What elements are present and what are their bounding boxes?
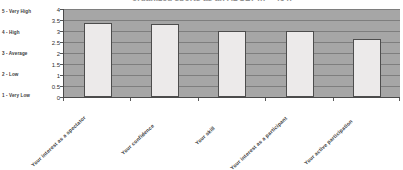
scale-legend-item-low: 2 - Low	[2, 72, 46, 77]
y-axis-tick-2-5: 2.5	[52, 40, 60, 46]
bar-slot-5	[334, 9, 401, 97]
chart-title: organized sports as an ADULT (n = 464)	[62, 0, 362, 1]
x-axis-category-labels: Your interest as a spectator Your confid…	[0, 100, 403, 170]
bar-your-active-participation[interactable]	[353, 39, 381, 97]
scale-legend-item-very-high: 5 - Very High	[2, 9, 46, 14]
y-axis-tick-4: 4	[57, 7, 60, 13]
bar-slot-4	[266, 9, 333, 97]
plot-area	[63, 9, 400, 98]
x-axis-label-your-active-participation: Your active participation	[303, 118, 354, 166]
y-axis-tick-2: 2	[57, 51, 60, 57]
scale-legend-item-very-low: 1 - Very Low	[2, 93, 46, 98]
y-axis-tick-labels: 4 3.5 3 2.5 2 1.5 1 0.5 0	[44, 7, 62, 99]
bar-slot-3	[199, 9, 266, 97]
y-axis-tick-3: 3	[57, 29, 60, 35]
scale-legend-item-average: 3 - Average	[2, 51, 46, 56]
x-axis-label-your-skill: Your skill	[194, 125, 216, 146]
chart-container: organized sports as an ADULT (n = 464) 5…	[0, 0, 403, 170]
x-axis-label-your-interest-as-a-participant: Your interest as a participant	[229, 115, 288, 170]
bar-your-skill[interactable]	[218, 31, 246, 97]
x-axis-label-your-confidence: Your confidence	[120, 123, 155, 156]
y-axis-tick-0-5: 0.5	[52, 84, 60, 90]
y-axis-tick-3-5: 3.5	[52, 18, 60, 24]
y-axis-tick-1-5: 1.5	[52, 62, 60, 68]
bar-slot-2	[131, 9, 198, 97]
scale-legend-item-high: 4 - High	[2, 30, 46, 35]
bar-your-interest-as-a-spectator[interactable]	[84, 23, 112, 97]
bar-slot-1	[64, 9, 131, 97]
rating-scale-legend: 5 - Very High 4 - High 3 - Average 2 - L…	[2, 9, 46, 95]
bar-your-interest-as-a-participant[interactable]	[286, 31, 314, 97]
bar-series	[64, 9, 400, 97]
x-axis-label-your-interest-as-a-spectator: Your interest as a spectator	[30, 114, 87, 168]
bar-your-confidence[interactable]	[151, 24, 179, 97]
y-axis-tick-1: 1	[57, 73, 60, 79]
